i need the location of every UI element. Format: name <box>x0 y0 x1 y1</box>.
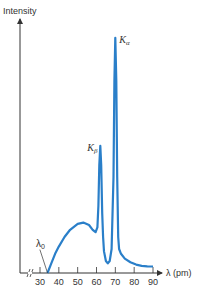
x-tick-label: 70 <box>110 277 120 287</box>
x-tick-label: 90 <box>148 277 158 287</box>
x-tick-label: 80 <box>129 277 139 287</box>
x-tick-label: 50 <box>73 277 83 287</box>
svg-text:Kβ: Kβ <box>86 142 98 155</box>
svg-text:λ0: λ0 <box>36 238 45 250</box>
y-axis-label: Intensity <box>3 6 37 16</box>
spectrum-line <box>48 38 154 273</box>
lambda0-leader-line <box>40 250 48 273</box>
lambda0-annotation: λ0 <box>36 238 48 273</box>
k-alpha-annotation: Kα <box>118 34 130 47</box>
svg-text:Kα: Kα <box>118 34 130 47</box>
x-tick-label: 60 <box>91 277 101 287</box>
x-tick-label: 40 <box>54 277 64 287</box>
x-axis-label: λ (pm) <box>166 268 192 278</box>
k-beta-annotation: Kβ <box>86 142 98 155</box>
x-tick-label: 30 <box>35 277 45 287</box>
xray-spectrum-chart: Intensity λ (pm) 30405060708090 KαKβλ0 <box>0 0 197 293</box>
